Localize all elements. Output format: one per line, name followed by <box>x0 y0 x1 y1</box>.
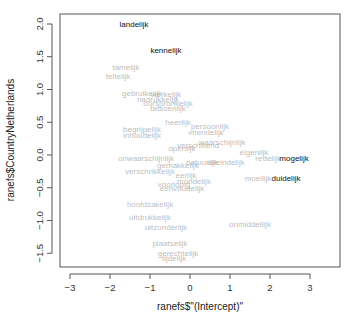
point-label: landelijk <box>120 20 150 29</box>
x-axis: −3−2−10123 <box>65 274 313 293</box>
point-label: vriendelijk <box>188 128 225 137</box>
point-label: moeilijk <box>245 174 273 183</box>
x-tick-label: −1 <box>145 282 156 293</box>
x-tick-label: 2 <box>267 282 272 293</box>
y-tick-label: 0.5 <box>34 116 45 129</box>
y-axis-label: ranefs$CountryNetherlands <box>5 79 16 201</box>
x-axis-label: ranefs$"(Intercept)" <box>157 301 243 312</box>
point-label: feitelijk <box>106 72 131 81</box>
point-label: tamelijk <box>112 63 140 72</box>
point-label: kennelijk <box>150 46 182 55</box>
y-tick-label: 0.0 <box>34 148 45 161</box>
point-label: plaatselijk <box>152 239 188 248</box>
x-tick-label: 0 <box>187 282 192 293</box>
point-label: heerlijk <box>165 118 191 127</box>
y-tick-label: −1.0 <box>34 211 45 230</box>
point-label: redelijk <box>255 154 281 163</box>
y-tick-label: 1.5 <box>34 50 45 63</box>
point-label: onmiddellijk <box>229 220 272 229</box>
point-label: uitdrukkelijk <box>129 213 172 222</box>
y-axis: −1.5−1.0−0.50.00.51.01.52.0 <box>34 17 52 262</box>
x-tick-label: −3 <box>65 282 76 293</box>
y-tick-label: −0.5 <box>34 178 45 197</box>
point-label: fatsoenlijk <box>150 104 187 113</box>
point-label: openlijk <box>168 144 196 153</box>
point-label: voorlopig <box>158 180 190 189</box>
point-label: tijdelijk <box>162 254 187 263</box>
point-label: duidelijk <box>272 174 302 183</box>
point-label: uitzonderlijk <box>145 223 188 232</box>
x-tick-label: 1 <box>227 282 232 293</box>
scatter-chart: −3−2−10123 −1.5−1.0−0.50.00.51.01.52.0 t… <box>0 0 354 326</box>
y-tick-label: −1.5 <box>34 244 45 263</box>
x-tick-label: 3 <box>307 282 312 293</box>
point-label: mogelijk <box>279 154 309 163</box>
point-label: uiteindelijk <box>207 158 245 167</box>
point-label: inhoudelijk <box>123 131 162 140</box>
points: tamelijkfeitelijkgebruikelijkwerkelijkna… <box>106 20 310 263</box>
y-tick-label: 2.0 <box>34 17 45 30</box>
point-label: gemakkelijk <box>157 161 200 170</box>
y-tick-label: 1.0 <box>34 83 45 96</box>
x-tick-label: −2 <box>105 282 116 293</box>
point-label: hoofdzakelijk <box>127 200 174 209</box>
